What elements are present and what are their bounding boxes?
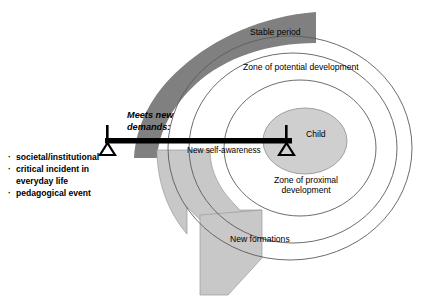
list-item-label: everyday life: [16, 176, 68, 186]
new-formations-arrow-tail: [200, 210, 262, 295]
list-item-label: societal/institutional: [16, 152, 99, 162]
beam-bar: [105, 138, 292, 144]
bullet-icon: ·: [8, 164, 11, 175]
list-item-label: pedagogical event: [16, 188, 91, 198]
zone-proximal-line1: Zone of proximal: [274, 175, 338, 185]
list-item: ·critical incident in: [8, 164, 134, 175]
meets-new-demands-line1: Meets new: [127, 110, 173, 120]
bullet-icon: ·: [8, 152, 11, 163]
beam-left-post: [106, 125, 109, 141]
zone-potential-development-label: Zone of potential development: [243, 62, 359, 72]
stable-period-label: Stable period: [250, 27, 301, 37]
list-item: ·societal/institutional: [8, 152, 134, 163]
new-self-awareness-label: New self-awareness: [187, 146, 261, 156]
child-label: Child: [306, 129, 326, 139]
bullet-icon: ·: [8, 188, 11, 199]
list-item: ·pedagogical event: [8, 188, 134, 199]
meets-new-demands-label: Meets newdemands:: [127, 110, 173, 133]
meets-new-demands-line2: demands:: [127, 122, 170, 132]
demands-list: ·societal/institutional ·critical incide…: [8, 152, 134, 199]
new-formations-label: New formations: [230, 234, 290, 244]
zone-proximal-development-label: Zone of proximaldevelopment: [258, 175, 354, 195]
list-item-label: critical incident in: [16, 164, 89, 174]
developmental-zones-diagram: Stable period Zone of potential developm…: [0, 0, 427, 296]
zone-proximal-line2: development: [281, 185, 330, 195]
demands-list-items: ·societal/institutional ·critical incide…: [8, 152, 134, 199]
list-item-continuation: everyday life: [8, 176, 134, 187]
beam-right-post: [285, 125, 288, 141]
